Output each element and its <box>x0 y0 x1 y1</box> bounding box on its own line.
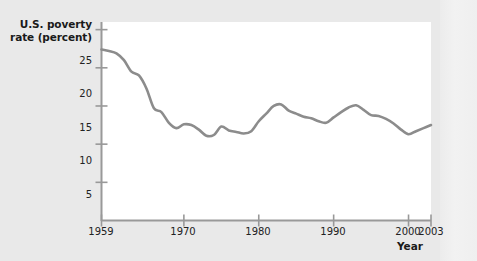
chart-svg <box>0 0 477 261</box>
poverty-rate-line <box>102 49 432 136</box>
poverty-rate-figure: U.S. poverty rate (percent) Year 25 20 1… <box>0 0 477 261</box>
